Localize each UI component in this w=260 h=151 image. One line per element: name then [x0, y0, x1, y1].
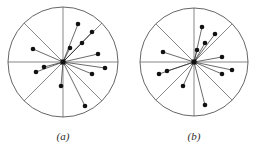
spoke-line: [194, 62, 222, 74]
data-point: [76, 22, 81, 27]
data-point: [230, 68, 235, 73]
radial-scatter-figure: (a)(b): [0, 0, 260, 151]
panel-b: (b): [140, 8, 248, 143]
data-point: [103, 66, 108, 71]
data-point: [90, 72, 95, 77]
spoke-line: [63, 43, 82, 62]
sector-divider-line: [63, 62, 102, 101]
data-point: [213, 32, 218, 37]
panel-label-b: (b): [188, 130, 201, 143]
data-point: [203, 41, 208, 46]
data-point: [34, 70, 39, 75]
sector-divider-line: [194, 62, 232, 100]
sector-divider-line: [24, 23, 63, 62]
center-hub-marker: [61, 60, 66, 65]
data-point: [31, 47, 36, 52]
data-point: [220, 72, 225, 77]
center-hub-marker: [192, 60, 197, 65]
sector-divider-line: [194, 24, 232, 62]
spoke-line: [194, 62, 232, 70]
spoke-line: [36, 62, 63, 72]
spoke-line: [63, 24, 78, 62]
data-point: [59, 84, 64, 89]
data-point: [80, 41, 85, 46]
data-point: [203, 103, 208, 108]
spoke-line: [63, 54, 98, 62]
data-point: [220, 55, 225, 60]
data-point: [161, 50, 166, 55]
sector-divider-line: [156, 24, 194, 62]
data-point: [90, 30, 95, 35]
data-point: [83, 104, 88, 109]
data-point: [157, 72, 162, 77]
spoke-line: [63, 62, 85, 106]
sector-divider-line: [156, 62, 194, 100]
data-point: [42, 65, 47, 70]
data-point: [195, 48, 200, 53]
data-point: [96, 52, 101, 57]
panel-label-a: (a): [57, 130, 70, 143]
data-point: [68, 46, 73, 51]
panel-a: (a): [8, 7, 118, 143]
spoke-line: [194, 62, 205, 105]
data-point: [165, 69, 170, 74]
spoke-line: [159, 62, 194, 74]
data-point: [181, 84, 186, 89]
spoke-line: [33, 49, 63, 62]
figure-container: (a)(b): [0, 0, 260, 151]
data-point: [200, 25, 205, 30]
